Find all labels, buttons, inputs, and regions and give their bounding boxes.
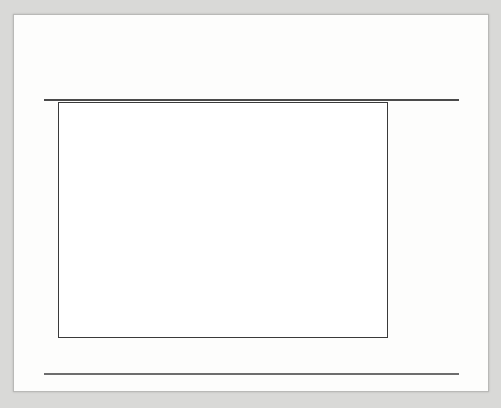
- scanned-page: [13, 14, 489, 392]
- title-divider-top: [44, 99, 459, 101]
- chart-plot-area: [58, 102, 388, 337]
- stacked-area-series: [59, 103, 387, 337]
- page-background: [0, 0, 501, 408]
- plot-frame: [58, 102, 388, 338]
- divider-bottom: [44, 373, 459, 375]
